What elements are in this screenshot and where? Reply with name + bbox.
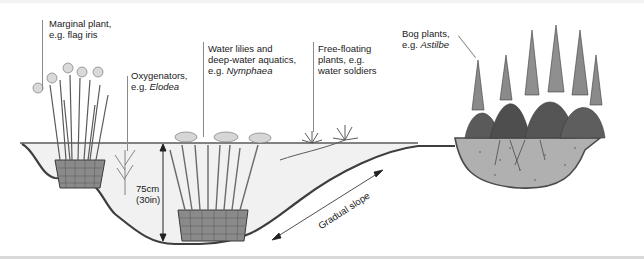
label-line: e.g. Nymphaea bbox=[208, 65, 296, 76]
depth-imperial: (30in) bbox=[136, 194, 160, 205]
label-prefix: e.g. bbox=[402, 39, 421, 50]
label-prefix: e.g. bbox=[208, 65, 227, 76]
marginal-basket bbox=[55, 160, 105, 188]
label-line: e.g. Elodea bbox=[131, 81, 188, 92]
label-line: e.g. Astilbe bbox=[402, 39, 450, 50]
label-bog-plants: Bog plants, e.g. Astilbe bbox=[402, 28, 450, 50]
water-lily-leader-line bbox=[203, 42, 204, 137]
depth-label: 75cm (30in) bbox=[136, 183, 160, 205]
label-oxygenators: Oxygenators, e.g. Elodea bbox=[131, 70, 188, 92]
lily-basket bbox=[178, 210, 248, 241]
label-line: Bog plants, bbox=[402, 28, 450, 39]
depth-metric: 75cm bbox=[136, 183, 160, 194]
label-line: Free-floating bbox=[318, 43, 377, 54]
marginal-leader-line bbox=[42, 20, 43, 90]
label-water-lilies: Water lilies and deep-water aquatics, e.… bbox=[208, 43, 296, 76]
water-lily-flowers bbox=[175, 132, 271, 143]
label-line: e.g. flag iris bbox=[49, 29, 111, 40]
label-species: Nymphaea bbox=[227, 65, 273, 76]
label-free-floating: Free-floating plants, e.g. water soldier… bbox=[318, 43, 377, 76]
label-line: plants, e.g. bbox=[318, 54, 377, 65]
label-line: Marginal plant, bbox=[49, 18, 111, 29]
bog-soil bbox=[455, 138, 600, 188]
oxygenator-leader-line bbox=[127, 76, 128, 151]
label-prefix: e.g. bbox=[131, 81, 150, 92]
label-line: Oxygenators, bbox=[131, 70, 188, 81]
label-marginal-plant: Marginal plant, e.g. flag iris bbox=[49, 18, 111, 40]
bog-plants bbox=[465, 25, 605, 138]
label-line: water soldiers bbox=[318, 65, 377, 76]
label-line: Water lilies and bbox=[208, 43, 296, 54]
label-species: Astilbe bbox=[421, 39, 450, 50]
label-species: Elodea bbox=[150, 81, 180, 92]
label-line: deep-water aquatics, bbox=[208, 54, 296, 65]
free-floating-leader-line bbox=[313, 42, 314, 132]
